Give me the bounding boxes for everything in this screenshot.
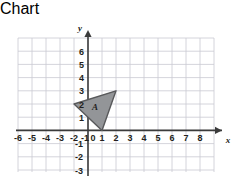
- triangle-a-label: A: [91, 102, 98, 112]
- x-tick-7: 7: [183, 133, 188, 143]
- x-tick--3: -3: [56, 133, 64, 143]
- y-tick-5: 5: [79, 60, 84, 70]
- y-tick-2: 2: [79, 100, 84, 110]
- x-tick-6: 6: [169, 133, 174, 143]
- x-tick--4: -4: [42, 133, 50, 143]
- x-tick-0: 0: [90, 133, 95, 143]
- y-tick--1: -1: [75, 139, 83, 149]
- y-tick-4: 4: [79, 73, 84, 83]
- y-tick--2: -2: [75, 152, 83, 162]
- x-tick-4: 4: [141, 133, 146, 143]
- coordinate-plane-figure: A -6 -5 -4 -3 -2 -1 0 1 2 3 4 5 6 7 8 -3…: [0, 18, 235, 182]
- x-tick--5: -5: [28, 133, 36, 143]
- x-axis-label: x: [225, 135, 231, 145]
- coordinate-grid-svg: A -6 -5 -4 -3 -2 -1 0 1 2 3 4 5 6 7 8 -3…: [0, 18, 235, 182]
- x-tick--6: -6: [14, 133, 22, 143]
- y-tick-6: 6: [79, 47, 84, 57]
- x-tick-5: 5: [155, 133, 160, 143]
- x-tick-3: 3: [127, 133, 132, 143]
- x-tick-8: 8: [197, 133, 202, 143]
- y-tick-3: 3: [79, 86, 84, 96]
- x-tick-1: 1: [99, 133, 104, 143]
- y-tick-1: 1: [79, 113, 84, 123]
- y-tick--3: -3: [75, 166, 83, 176]
- x-tick-2: 2: [113, 133, 118, 143]
